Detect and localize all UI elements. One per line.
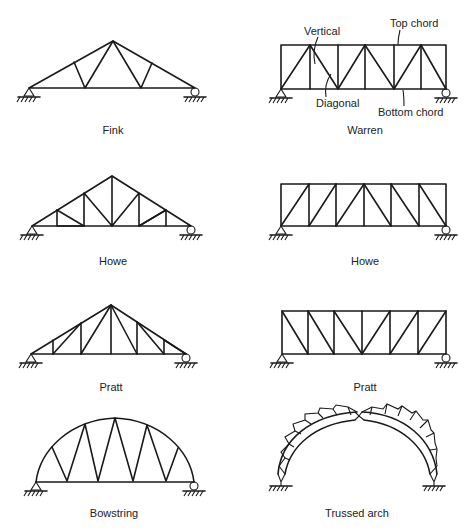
label-top-chord: Top chord: [390, 17, 438, 29]
leader-top-chord: [398, 30, 400, 45]
howe-bridge-truss: Howe: [269, 184, 457, 267]
pin-support-icon: [19, 354, 42, 368]
caption-warren: Warren: [347, 124, 383, 136]
caption-trussed-arch: Trussed arch: [325, 507, 389, 519]
caption-pratt-bridge: Pratt: [353, 381, 376, 393]
roller-support-icon: [175, 354, 197, 368]
caption-howe-bridge: Howe: [351, 255, 379, 267]
warren-truss: Vertical Top chord Diagonal Bottom chord…: [269, 17, 457, 136]
fink-truss: Fink: [17, 41, 206, 136]
pin-support-icon: [270, 354, 293, 368]
roller-support-icon: [435, 226, 457, 240]
roller-support-icon: [184, 88, 206, 102]
roller-support-icon: [180, 226, 202, 240]
truss-diagram: Fink Vertical Top chord Diagonal Bottom …: [0, 0, 473, 532]
caption-pratt-roof: Pratt: [99, 381, 122, 393]
leader-vertical: [314, 37, 318, 64]
pin-support-icon: [24, 482, 47, 496]
leader-bottom-chord: [403, 90, 404, 106]
label-diagonal: Diagonal: [316, 97, 359, 109]
caption-fink: Fink: [103, 124, 124, 136]
pratt-roof-truss: Pratt: [19, 305, 197, 393]
label-vertical: Vertical: [304, 25, 340, 37]
roller-support-icon: [183, 482, 205, 496]
caption-bowstring: Bowstring: [90, 507, 138, 519]
pin-support-icon: [269, 89, 292, 103]
caption-howe-roof: Howe: [99, 255, 127, 267]
roller-support-icon: [435, 354, 457, 368]
bowstring-truss: Bowstring: [24, 418, 205, 519]
pin-support-icon: [269, 226, 292, 240]
pin-support-icon: [17, 88, 40, 102]
pratt-bridge-truss: Pratt: [270, 311, 457, 393]
trussed-arch: Trussed arch: [269, 404, 445, 519]
pin-support-icon: [20, 226, 43, 240]
label-bottom-chord: Bottom chord: [378, 106, 443, 118]
roller-support-icon: [435, 89, 457, 103]
howe-roof-truss: Howe: [20, 176, 202, 267]
